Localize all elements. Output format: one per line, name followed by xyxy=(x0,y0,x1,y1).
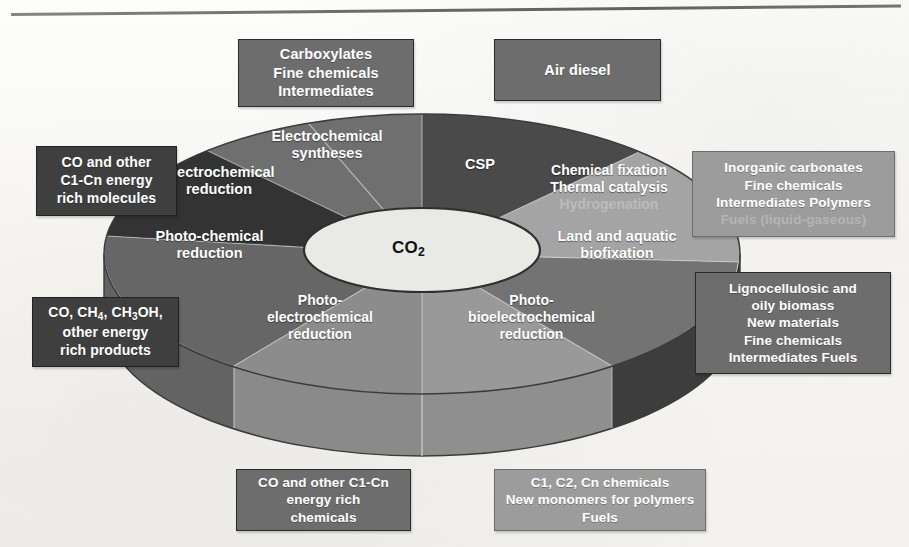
callout-co-ch4-ch3oh[interactable]: CO, CH4, CH3OH, other energy rich produc… xyxy=(32,297,179,367)
callout-line: Inorganic carbonates xyxy=(716,159,871,176)
callout-c1-c2-cn-chemicals[interactable]: C1, C2, Cn chemicals New monomers for po… xyxy=(494,469,706,531)
callout-line: chemicals xyxy=(258,509,389,526)
callout-line: C1-Cn energy xyxy=(57,172,156,190)
header-rule xyxy=(11,4,901,16)
callout-inorganic-carbonates[interactable]: Inorganic carbonates Fine chemicals Inte… xyxy=(692,151,895,237)
callout-co-c1cn-chemicals[interactable]: CO and other C1-Cn energy rich chemicals xyxy=(236,469,411,531)
callout-line-faded: Fuels (liquid-gaseous) xyxy=(716,211,871,228)
callout-air-diesel[interactable]: Air diesel xyxy=(494,39,661,101)
callout-line: CO, CH4, CH3OH, xyxy=(48,304,163,323)
callout-line: Fine chemicals xyxy=(273,64,378,83)
callout-line: Air diesel xyxy=(544,61,610,80)
callout-line: New monomers for polymers xyxy=(506,491,695,508)
callout-carboxylates[interactable]: Carboxylates Fine chemicals Intermediate… xyxy=(238,39,414,107)
callout-line: energy rich xyxy=(258,491,389,508)
callout-line: Fine chemicals xyxy=(729,332,858,349)
callout-line: Fuels xyxy=(506,509,695,526)
callout-line: CO and other xyxy=(57,154,156,172)
callout-line: other energy xyxy=(48,324,163,342)
callout-line: Intermediates xyxy=(273,82,378,101)
figure-canvas: Electrochemical syntheses CSP Chemical f… xyxy=(0,0,909,547)
callout-line: New materials xyxy=(729,314,858,331)
callout-line: Carboxylates xyxy=(273,45,378,64)
callout-line: Lignocellulosic and xyxy=(729,280,858,297)
co2-center-label: CO2 xyxy=(392,238,425,259)
callout-line: Fine chemicals xyxy=(716,177,871,194)
callout-line: Intermediates Polymers xyxy=(716,194,871,211)
callout-co-c1cn-molecules[interactable]: CO and other C1-Cn energy rich molecules xyxy=(36,146,177,216)
callout-lignocellulosic-biomass[interactable]: Lignocellulosic and oily biomass New mat… xyxy=(695,272,891,374)
callout-line: C1, C2, Cn chemicals xyxy=(506,474,695,491)
callout-line: CO and other C1-Cn xyxy=(258,474,389,491)
callout-line: rich products xyxy=(48,342,163,360)
callout-line: rich molecules xyxy=(57,190,156,208)
callout-line: oily biomass xyxy=(729,297,858,314)
callout-line: Intermediates Fuels xyxy=(729,349,858,366)
